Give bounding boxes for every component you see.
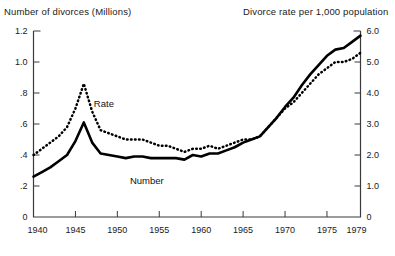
series-line-rate bbox=[34, 53, 361, 155]
y2-tick-label-3: 3.0 bbox=[367, 119, 380, 129]
y2-tick-label-0: 0 bbox=[367, 212, 372, 222]
x-tick-label-6: 1970 bbox=[275, 225, 295, 235]
y-tick-label-4: .8 bbox=[20, 88, 28, 98]
annotation-rate: Rate bbox=[94, 98, 114, 109]
annotation-number: Number bbox=[130, 175, 164, 186]
y-tick-label-3: .6 bbox=[20, 119, 28, 129]
series-annotations: RateNumber bbox=[94, 98, 164, 187]
x-tick-label-3: 1955 bbox=[149, 225, 169, 235]
x-tick-label-0: 1940 bbox=[28, 225, 48, 235]
x-tick-label-2: 1950 bbox=[107, 225, 127, 235]
y-tick-label-5: 1.0 bbox=[15, 57, 28, 67]
data-series bbox=[34, 36, 361, 177]
y2-tick-label-5: 5.0 bbox=[367, 57, 380, 67]
series-line-number bbox=[34, 36, 361, 177]
y-tick-label-0: 0 bbox=[22, 212, 27, 222]
y-tick-label-6: 1.2 bbox=[15, 26, 28, 36]
x-tick-label-5: 1965 bbox=[233, 225, 253, 235]
x-tick-label-4: 1960 bbox=[191, 225, 211, 235]
plot-area: 0.2.4.6.81.01.201.02.03.04.05.06.0194019… bbox=[0, 0, 395, 256]
y2-tick-label-1: 1.0 bbox=[367, 181, 380, 191]
y2-tick-label-6: 6.0 bbox=[367, 26, 380, 36]
x-tick-label-8: 1979 bbox=[346, 225, 366, 235]
y-tick-label-1: .2 bbox=[20, 181, 28, 191]
y-tick-label-2: .4 bbox=[20, 150, 28, 160]
x-tick-label-7: 1975 bbox=[317, 225, 337, 235]
divorce-chart: Number of divorces (Millions) Divorce ra… bbox=[0, 0, 395, 256]
y2-tick-label-2: 2.0 bbox=[367, 150, 380, 160]
y2-tick-label-4: 4.0 bbox=[367, 88, 380, 98]
x-tick-label-1: 1945 bbox=[65, 225, 85, 235]
